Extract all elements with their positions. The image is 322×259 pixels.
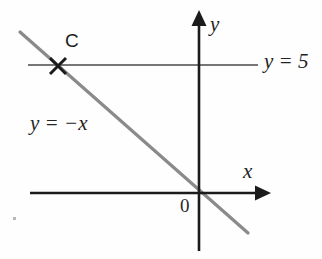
- y-axis-label: y: [210, 14, 219, 35]
- y-axis-arrowhead: [192, 10, 207, 26]
- point-c-marker: [50, 58, 66, 74]
- point-c-label: C: [65, 31, 79, 50]
- line-equation-label: y = −x: [30, 113, 87, 134]
- graph-figure: y x C y = −x y = 5 0: [0, 0, 322, 259]
- x-axis-label: x: [243, 161, 252, 182]
- scan-artifact-speck: [13, 217, 16, 220]
- x-axis-arrowhead: [255, 186, 271, 201]
- origin-label: 0: [180, 196, 190, 215]
- constant-equation-label: y = 5: [264, 51, 309, 72]
